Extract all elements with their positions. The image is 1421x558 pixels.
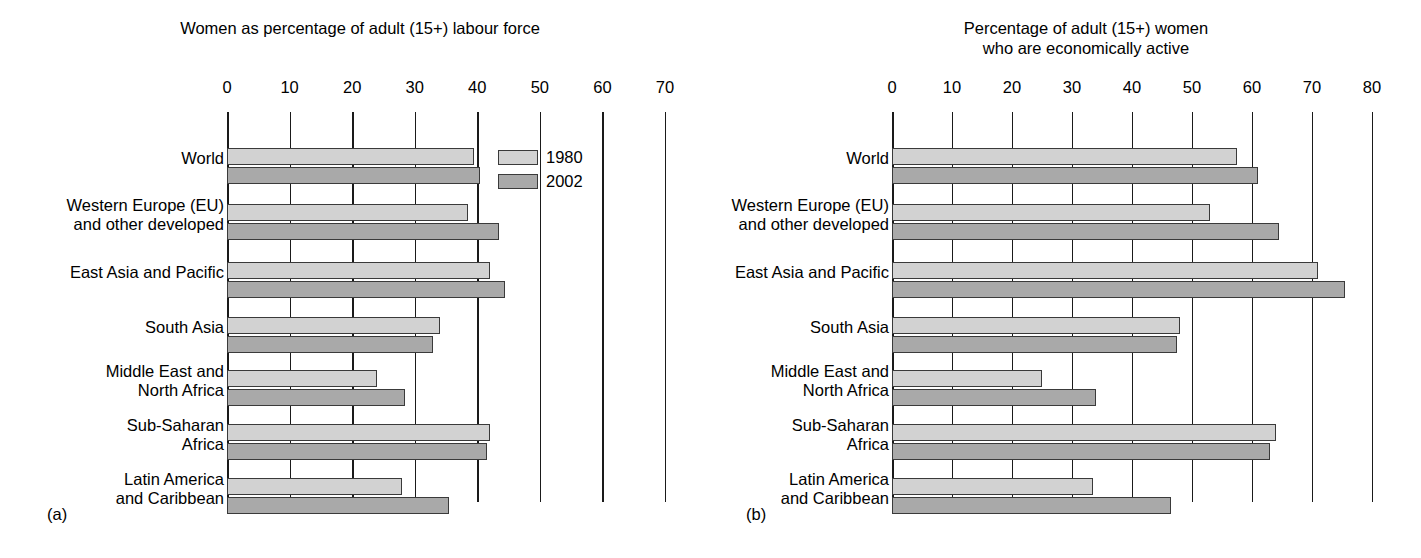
- bar-group: [892, 478, 1372, 516]
- bar-1980: [892, 317, 1180, 334]
- category-label: East Asia and Pacific: [659, 263, 889, 282]
- panel-b-axis-ticks: 01020304050607080: [706, 78, 1421, 98]
- axis-tick-70: 70: [656, 78, 674, 97]
- axis-tick-20: 20: [1003, 78, 1021, 97]
- axis-tick-60: 60: [1243, 78, 1261, 97]
- axis-tick-60: 60: [593, 78, 611, 97]
- bar-2002: [227, 389, 405, 406]
- bar-1980: [227, 204, 468, 221]
- panel-b-tag: (b): [746, 505, 766, 524]
- bar-2002: [892, 336, 1177, 353]
- category-label: South Asia: [659, 318, 889, 337]
- axis-tick-70: 70: [1303, 78, 1321, 97]
- panel-b-bar-groups: [892, 112, 1372, 502]
- panel-b-title: Percentage of adult (15+) women who are …: [866, 18, 1306, 58]
- category-label: Middle East and North Africa: [659, 362, 889, 400]
- figure: Women as percentage of adult (15+) labou…: [0, 0, 1421, 558]
- category-label: World: [0, 149, 224, 168]
- bar-2002: [892, 281, 1345, 298]
- panel-b-plot: [892, 112, 1372, 502]
- bar-1980: [227, 317, 440, 334]
- axis-tick-0: 0: [887, 78, 896, 97]
- category-label: Western Europe (EU) and other developed: [0, 196, 224, 234]
- legend: 1980 2002: [498, 148, 608, 204]
- bar-group: [227, 478, 665, 516]
- bar-1980: [227, 370, 377, 387]
- axis-tick-20: 20: [343, 78, 361, 97]
- bar-2002: [892, 389, 1096, 406]
- axis-tick-10: 10: [943, 78, 961, 97]
- category-label: South Asia: [0, 318, 224, 337]
- bar-2002: [892, 497, 1171, 514]
- panel-a-tag: (a): [47, 505, 67, 524]
- bar-group: [892, 262, 1372, 300]
- bar-2002: [892, 223, 1279, 240]
- legend-label-2002: 2002: [546, 172, 583, 191]
- gridline-80: [1372, 112, 1373, 502]
- bar-2002: [227, 281, 505, 298]
- bar-group: [892, 424, 1372, 462]
- bar-1980: [892, 262, 1318, 279]
- bar-group: [892, 204, 1372, 242]
- bar-2002: [227, 443, 487, 460]
- legend-swatch-2002: [498, 174, 538, 189]
- bar-2002: [892, 167, 1258, 184]
- bar-group: [227, 317, 665, 355]
- axis-tick-30: 30: [406, 78, 424, 97]
- bar-1980: [892, 148, 1237, 165]
- bar-2002: [227, 167, 480, 184]
- axis-tick-40: 40: [468, 78, 486, 97]
- panel-a-axis-ticks: 010203040506070: [0, 78, 706, 98]
- bar-group: [892, 370, 1372, 408]
- category-label: Latin America and Caribbean: [659, 470, 889, 508]
- bar-2002: [227, 223, 499, 240]
- bar-group: [892, 317, 1372, 355]
- category-label: Western Europe (EU) and other developed: [659, 196, 889, 234]
- axis-tick-10: 10: [280, 78, 298, 97]
- category-label: Sub-Saharan Africa: [659, 416, 889, 454]
- bar-1980: [227, 262, 490, 279]
- axis-tick-50: 50: [531, 78, 549, 97]
- bar-1980: [227, 148, 474, 165]
- bar-group: [227, 204, 665, 242]
- bar-1980: [892, 370, 1042, 387]
- axis-tick-40: 40: [1123, 78, 1141, 97]
- bar-1980: [892, 424, 1276, 441]
- axis-tick-80: 80: [1363, 78, 1381, 97]
- bar-group: [227, 424, 665, 462]
- bar-1980: [892, 478, 1093, 495]
- panel-a-title: Women as percentage of adult (15+) labou…: [120, 18, 600, 38]
- bar-2002: [227, 336, 433, 353]
- category-label: Latin America and Caribbean: [0, 470, 224, 508]
- category-label: World: [659, 149, 889, 168]
- bar-group: [227, 262, 665, 300]
- legend-label-1980: 1980: [546, 148, 583, 167]
- panel-a: Women as percentage of adult (15+) labou…: [0, 0, 706, 558]
- axis-tick-50: 50: [1183, 78, 1201, 97]
- bar-2002: [892, 443, 1270, 460]
- axis-tick-30: 30: [1063, 78, 1081, 97]
- legend-swatch-1980: [498, 150, 538, 165]
- bar-1980: [227, 424, 490, 441]
- panel-b: Percentage of adult (15+) women who are …: [706, 0, 1421, 558]
- category-label: Middle East and North Africa: [0, 362, 224, 400]
- bar-1980: [892, 204, 1210, 221]
- bar-group: [227, 370, 665, 408]
- category-label: Sub-Saharan Africa: [0, 416, 224, 454]
- bar-2002: [227, 497, 449, 514]
- axis-tick-0: 0: [222, 78, 231, 97]
- category-label: East Asia and Pacific: [0, 263, 224, 282]
- bar-1980: [227, 478, 402, 495]
- bar-group: [892, 148, 1372, 186]
